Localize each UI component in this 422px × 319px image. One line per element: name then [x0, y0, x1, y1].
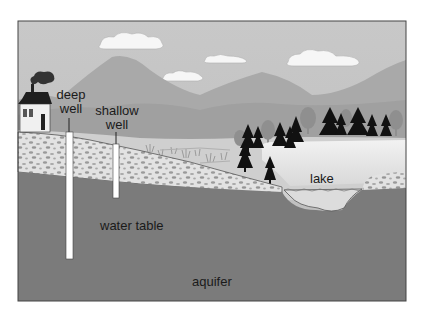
aquifer-label: aquifer	[192, 275, 232, 289]
deep-well-label: deep well	[53, 88, 89, 116]
lake-label: lake	[310, 172, 334, 186]
shallow-well-pipe	[113, 144, 119, 198]
house-window	[29, 109, 33, 117]
shallow-well-label-line2: well	[92, 118, 142, 132]
water-table-label: water table	[100, 219, 164, 233]
shallow-well-label: shallow well	[92, 104, 142, 132]
shallow-well-label-line1: shallow	[92, 104, 142, 118]
deep-well-label-line1: deep	[53, 88, 89, 102]
house-wall	[20, 104, 50, 132]
deep-well-pipe	[66, 132, 73, 259]
deep-well-label-line2: well	[53, 102, 89, 116]
house-window	[23, 109, 27, 117]
groundwater-diagram	[0, 0, 422, 319]
house-door	[41, 114, 45, 130]
